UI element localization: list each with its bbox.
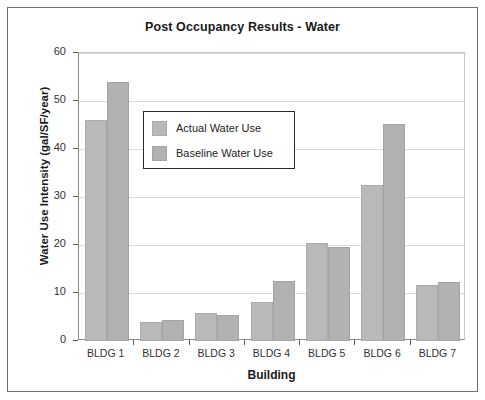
gridline	[79, 197, 464, 198]
x-tick-mark	[410, 340, 411, 345]
legend-entry-baseline: Baseline Water Use	[152, 143, 273, 163]
bar	[361, 185, 383, 341]
x-tick-label: BLDG 2	[131, 347, 191, 359]
legend-label-actual-water-use: Actual Water Use	[176, 122, 261, 134]
x-tick-mark	[189, 340, 190, 345]
legend-entry-actual: Actual Water Use	[152, 118, 261, 138]
y-axis-title: Water Use Intensity (gal/SF/year)	[38, 46, 50, 306]
y-tick-label: 50	[40, 93, 66, 105]
bar	[217, 315, 239, 341]
bar	[140, 322, 162, 341]
bar	[416, 285, 438, 341]
bar	[273, 281, 295, 341]
bar	[162, 320, 184, 341]
x-tick-label: BLDG 3	[186, 347, 246, 359]
gridline	[79, 293, 464, 294]
chart-figure: Post Occupancy Results - Water Water Use…	[0, 0, 485, 400]
y-tick-label: 30	[40, 189, 66, 201]
x-tick-label: BLDG 7	[407, 347, 467, 359]
legend-label-baseline-water-use: Baseline Water Use	[176, 147, 273, 159]
x-tick-mark	[354, 340, 355, 345]
y-tick-mark	[73, 292, 78, 293]
gridline	[79, 245, 464, 246]
bar	[438, 282, 460, 341]
plot-area	[78, 52, 465, 340]
legend-swatch-actual-water-use	[152, 121, 167, 136]
gridline	[79, 53, 464, 54]
y-tick-label: 20	[40, 237, 66, 249]
gridline	[79, 101, 464, 102]
y-tick-label: 60	[40, 45, 66, 57]
x-tick-mark	[244, 340, 245, 345]
y-tick-mark	[73, 148, 78, 149]
y-tick-mark	[73, 100, 78, 101]
x-tick-label: BLDG 5	[297, 347, 357, 359]
y-tick-mark	[73, 52, 78, 53]
bar	[251, 302, 273, 341]
chart-legend: Actual Water Use Baseline Water Use	[143, 111, 295, 169]
y-tick-mark	[73, 244, 78, 245]
x-tick-mark	[133, 340, 134, 345]
y-tick-label: 40	[40, 141, 66, 153]
bar	[383, 124, 405, 341]
x-axis-title: Building	[78, 368, 465, 382]
x-tick-label: BLDG 4	[242, 347, 302, 359]
y-tick-mark	[73, 196, 78, 197]
chart-title: Post Occupancy Results - Water	[0, 20, 485, 34]
bar	[328, 247, 350, 341]
x-tick-mark	[299, 340, 300, 345]
y-tick-label: 10	[40, 285, 66, 297]
y-tick-label: 0	[40, 333, 66, 345]
bar	[195, 313, 217, 341]
bar	[107, 82, 129, 341]
bar	[306, 243, 328, 341]
bar	[85, 120, 107, 341]
x-tick-label: BLDG 1	[76, 347, 136, 359]
x-tick-label: BLDG 6	[352, 347, 412, 359]
legend-swatch-baseline-water-use	[152, 146, 167, 161]
y-tick-mark	[73, 340, 78, 341]
